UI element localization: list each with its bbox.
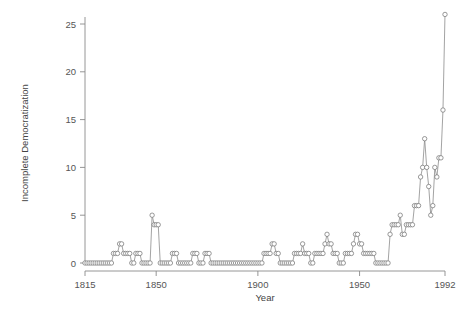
data-point-marker (189, 261, 193, 265)
data-point-marker (168, 261, 172, 265)
y-tick-label: 15 (65, 114, 76, 125)
data-point-marker (429, 213, 433, 217)
data-point-marker (311, 261, 315, 265)
data-point-marker (109, 261, 113, 265)
data-point-marker (435, 175, 439, 179)
line-chart: 0510152025 18151850190019501992 Year Inc… (0, 0, 462, 318)
x-tick-label: 1950 (349, 279, 370, 290)
x-tick-label: 1900 (247, 279, 268, 290)
data-point-marker (424, 165, 428, 169)
data-point-marker (398, 213, 402, 217)
data-point-marker (138, 251, 142, 255)
data-point-marker (260, 261, 264, 265)
data-point-marker (335, 251, 339, 255)
data-point-marker (402, 232, 406, 236)
data-point-marker (422, 137, 426, 141)
y-tick-label: 25 (65, 19, 76, 30)
data-point-marker (307, 251, 311, 255)
y-tick-label: 10 (65, 162, 76, 173)
data-point-marker (195, 251, 199, 255)
data-point-marker (372, 251, 376, 255)
data-point-marker (351, 242, 355, 246)
x-tick-label: 1815 (74, 279, 95, 290)
data-point-marker (341, 261, 345, 265)
data-point-marker (396, 223, 400, 227)
data-point-marker (431, 203, 435, 207)
x-tick-label: 1850 (146, 279, 167, 290)
data-point-marker (416, 203, 420, 207)
data-point-marker (119, 242, 123, 246)
data-point-marker (439, 156, 443, 160)
x-axis-ticks: 18151850190019501992 (74, 271, 455, 290)
y-tick-label: 0 (71, 258, 76, 269)
data-point-marker (174, 251, 178, 255)
data-point-marker (443, 12, 447, 16)
data-point-marker (268, 251, 272, 255)
data-point-marker (410, 223, 414, 227)
data-point-marker (388, 232, 392, 236)
data-point-marker (201, 261, 205, 265)
x-axis-title: Year (255, 292, 274, 303)
y-axis-ticks: 0510152025 (65, 19, 85, 269)
data-point-marker (441, 108, 445, 112)
data-point-marker (386, 261, 390, 265)
data-point-marker (427, 184, 431, 188)
data-point-marker (128, 251, 132, 255)
data-point-marker (329, 242, 333, 246)
data-point-marker (355, 232, 359, 236)
data-point-marker (150, 213, 154, 217)
data-point-marker (321, 251, 325, 255)
data-point-marker (418, 175, 422, 179)
y-axis-title: Incomplete Democratization (19, 84, 30, 202)
y-tick-label: 5 (71, 210, 76, 221)
y-tick-label: 20 (65, 66, 76, 77)
data-point-marker (325, 232, 329, 236)
x-tick-label: 1992 (434, 279, 455, 290)
data-point-marker (272, 242, 276, 246)
data-point-marker (276, 251, 280, 255)
data-point-marker (300, 242, 304, 246)
data-point-marker (132, 261, 136, 265)
data-point-marker (115, 251, 119, 255)
data-point-marker (207, 251, 211, 255)
data-point-marker (349, 251, 353, 255)
data-point-marker (359, 242, 363, 246)
series-markers (83, 12, 447, 265)
chart-figure: 0510152025 18151850190019501992 Year Inc… (0, 0, 462, 318)
data-point-marker (148, 261, 152, 265)
data-point-marker (290, 261, 294, 265)
data-point-marker (433, 165, 437, 169)
data-point-marker (156, 223, 160, 227)
